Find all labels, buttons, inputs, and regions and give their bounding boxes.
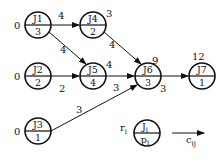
edge-weight-j1-j5: 4 (60, 44, 66, 55)
release-j1: 0 (14, 20, 20, 31)
node-j4: J4 2 (80, 12, 106, 38)
release-j7: 12 (192, 51, 205, 62)
node-j6: J6 3 (135, 63, 161, 89)
edge-weight-j4-j6: 4 (109, 39, 115, 50)
legend-edge-label: cij (186, 134, 196, 148)
edge-weight-j5-j6: 3 (113, 82, 119, 93)
svg-text:J2: J2 (32, 64, 43, 75)
precedence-diagram: 4 4 2 4 3 3 3 0 0 0 3 4 9 12 J1 3 J2 2 J… (0, 0, 224, 163)
node-j7: J7 1 (189, 63, 215, 89)
node-j5: J5 4 (80, 63, 106, 89)
svg-text:2: 2 (90, 26, 96, 37)
svg-text:J4: J4 (87, 13, 98, 24)
edge-weight-j6-j7: 3 (160, 83, 166, 94)
svg-text:3: 3 (145, 77, 151, 88)
svg-text:J5: J5 (87, 64, 98, 75)
node-j1: J1 3 (25, 12, 51, 38)
edge-weight-j2-j5: 2 (59, 83, 65, 94)
node-j3: J3 1 (25, 118, 51, 144)
svg-text:J3: J3 (32, 119, 43, 130)
release-j3: 0 (14, 126, 20, 137)
svg-text:1: 1 (35, 132, 41, 143)
edge-weight-j1-j4: 4 (58, 10, 64, 21)
svg-text:J1: J1 (32, 13, 43, 24)
node-j2: J2 2 (25, 63, 51, 89)
edge-weight-j3-j6: 3 (76, 104, 82, 115)
svg-text:J7: J7 (196, 64, 207, 75)
svg-text:J6: J6 (142, 64, 153, 75)
release-j4: 3 (106, 8, 112, 19)
edge-j1-j5 (49, 32, 86, 64)
legend-release: ri (120, 122, 128, 136)
release-j5: 4 (106, 59, 112, 70)
svg-text:1: 1 (199, 77, 205, 88)
edges (49, 25, 188, 131)
release-j2: 0 (14, 71, 20, 82)
svg-text:4: 4 (90, 77, 96, 88)
svg-text:3: 3 (35, 26, 41, 37)
legend: Ji pi ri cij (120, 120, 204, 148)
svg-text:2: 2 (35, 77, 41, 88)
